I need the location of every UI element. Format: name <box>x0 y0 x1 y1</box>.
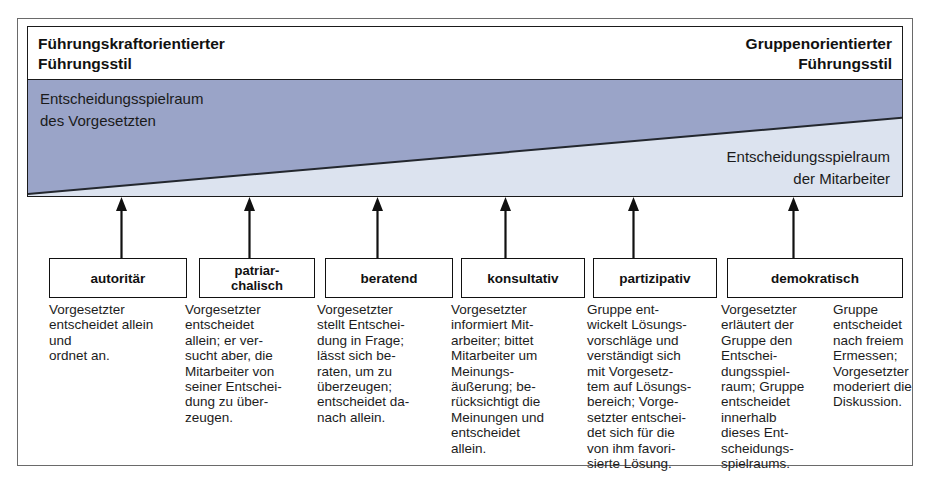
style-box-beratend[interactable]: beratend <box>325 258 453 298</box>
style-box-konsultativ[interactable]: konsultativ <box>461 258 585 298</box>
label-staff-latitude: Entscheidungsspielraum der Mitarbeiter <box>727 146 890 190</box>
header-strip: Führungskraftorientierter Führungsstil G… <box>27 26 903 80</box>
description-beratend: Vorgesetzter stellt Entschei- dung in Fr… <box>317 302 449 425</box>
diagram-outer-frame: Führungskraftorientierter Führungsstil G… <box>17 18 913 466</box>
label-manager-latitude: Entscheidungsspielraum des Vorgesetzten <box>40 88 203 132</box>
diagram-content: Führungskraftorientierter Führungsstil G… <box>27 26 903 458</box>
style-descriptions: Vorgesetzter entscheidet allein und ordn… <box>27 302 903 452</box>
arrow-to-beratend <box>371 197 384 258</box>
style-box-patriarchalisch[interactable]: patriar- chalisch <box>199 258 315 298</box>
arrow-to-demokratisch <box>787 197 800 258</box>
title-group-oriented: Gruppenorientierter Führungsstil <box>746 34 892 74</box>
description-patriarchalisch: Vorgesetzter entscheidet allein; er ver-… <box>185 302 311 425</box>
style-box-demokratisch[interactable]: demokratisch <box>727 258 903 298</box>
title-manager-oriented: Führungskraftorientierter Führungsstil <box>38 34 225 74</box>
leadership-style-boxes: autoritär patriar- chalisch beratend kon… <box>27 258 903 298</box>
description-demokratisch-a: Vorgesetzter erläutert der Gruppe den En… <box>721 302 833 471</box>
description-konsultativ: Vorgesetzter informiert Mit- arbeiter; b… <box>451 302 583 456</box>
arrow-to-patriarchalisch <box>243 197 256 258</box>
arrows-layer <box>27 197 903 258</box>
style-box-autoritaer[interactable]: autoritär <box>49 258 187 298</box>
description-demokratisch-b: Gruppe entscheidet nach freiem Ermessen;… <box>833 302 929 410</box>
description-autoritaer: Vorgesetzter entscheidet allein und ordn… <box>49 302 185 364</box>
style-box-partizipativ[interactable]: partizipativ <box>593 258 717 298</box>
arrow-to-konsultativ <box>499 197 512 258</box>
arrow-to-partizipativ <box>627 197 640 258</box>
arrow-to-autoritaer <box>115 197 128 258</box>
decision-latitude-band: Entscheidungsspielraum des Vorgesetzten … <box>27 80 903 197</box>
description-partizipativ: Gruppe ent- wickelt Lösungs- vorschläge … <box>587 302 719 471</box>
